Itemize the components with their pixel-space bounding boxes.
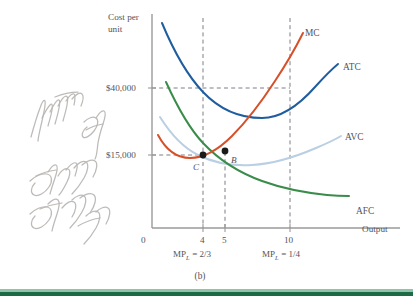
x-tick-label-4: 4 [200,235,205,245]
y-axis-title-line1: Cost per [108,12,139,22]
origin-label: 0 [141,235,146,245]
point-c-marker [200,152,207,159]
mp-prefix-10: MP [262,249,275,259]
x-tick-label-10: 10 [284,235,294,245]
figure-panel-b: divide Total by output [0,0,413,299]
panel-caption: (b) [195,271,206,282]
x-axis-title: Output [362,224,388,234]
bottom-rule-highlight [0,289,413,292]
mp-subscript-10: L [274,254,279,261]
mp-subscript-4: L [185,254,190,261]
point-b-marker [222,148,229,155]
cost-curves-chart: divide Total by output [0,0,413,299]
handwritten-margin-note: divide Total by output [30,92,110,244]
curve-label-mc: MC [305,28,320,38]
mp-annotation-output-10: MPL= 1/4 [262,249,301,261]
point-label-b: B [231,155,237,165]
mp-value-10: = 1/4 [281,249,300,259]
y-tick-label-15000: $15,000 [106,150,136,160]
mp-prefix-4: MP [173,249,186,259]
mp-annotation-output-4: MPL= 2/3 [173,249,212,261]
svg-text:MPL= 2/3: MPL= 2/3 [173,249,212,261]
reference-lines [152,18,290,228]
svg-text:MPL= 1/4: MPL= 1/4 [262,249,301,261]
curve-label-atc: ATC [343,62,361,72]
y-axis-title-line2: unit [108,24,123,34]
y-tick-label-40000: $40,000 [106,83,136,93]
curve-label-afc: AFC [356,206,374,216]
curve-label-avc: AVC [345,132,364,142]
curve-group [158,23,349,196]
axes [148,14,400,232]
point-label-c: C [193,162,200,172]
mp-value-4: = 2/3 [192,249,211,259]
x-tick-label-5: 5 [222,235,227,245]
curve-mc [158,33,303,158]
bottom-rule [0,292,413,296]
curve-afc [166,82,349,196]
